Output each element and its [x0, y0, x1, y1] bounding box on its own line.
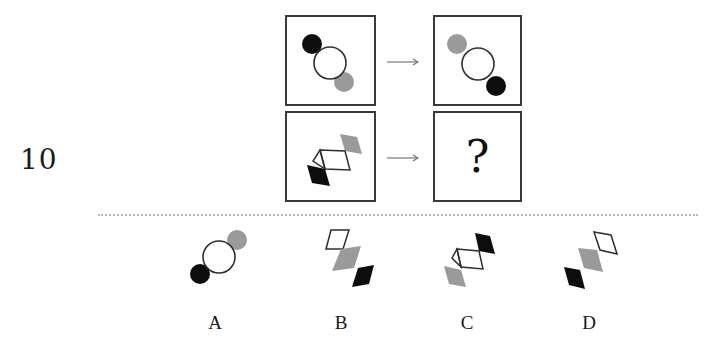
arrow-icon: [386, 154, 420, 162]
white-ring-icon: [203, 241, 235, 273]
gray-diamond-icon: [444, 266, 466, 287]
white-diamond-icon: [326, 230, 349, 249]
black-diamond-icon: [307, 165, 330, 186]
option-d-figure[interactable]: [560, 222, 630, 292]
arrow-icon: [386, 58, 420, 66]
answer-panel: ?: [433, 111, 522, 202]
option-a-label[interactable]: A: [200, 312, 230, 334]
example-after-panel: [433, 15, 522, 106]
white-ring-icon: [314, 47, 346, 79]
gray-circle-icon: [447, 34, 467, 54]
option-a-figure[interactable]: [185, 222, 255, 292]
example-before-panel: [285, 15, 376, 106]
black-circle-icon: [486, 76, 506, 96]
white-diamond-icon: [594, 232, 617, 254]
option-c-figure[interactable]: [440, 222, 510, 292]
option-c-label[interactable]: C: [452, 312, 482, 334]
question-mark: ?: [435, 131, 520, 182]
dotted-divider: [98, 214, 698, 216]
option-b-figure[interactable]: [315, 222, 385, 292]
option-b-label[interactable]: B: [326, 312, 356, 334]
white-ring-icon: [462, 48, 494, 80]
black-diamond-icon: [564, 267, 585, 289]
black-diamond-icon: [352, 265, 374, 287]
diamond-chain-figure: [287, 113, 378, 204]
option-d-label[interactable]: D: [574, 312, 604, 334]
circle-group-figure: [435, 17, 524, 108]
gray-diamond-icon: [578, 248, 603, 272]
circle-group-figure: [287, 17, 378, 108]
question-panel: [285, 111, 376, 202]
question-number: 10: [20, 143, 58, 176]
